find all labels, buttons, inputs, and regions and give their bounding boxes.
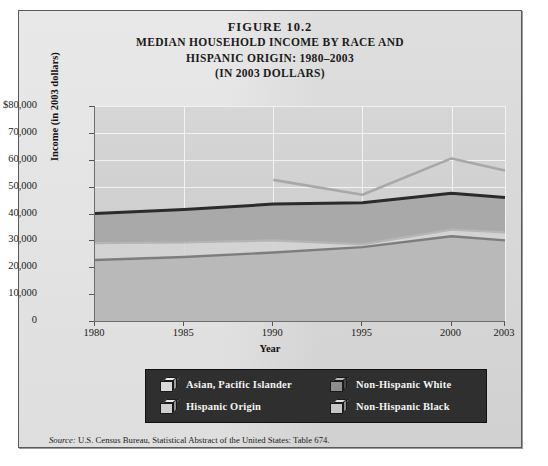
x-axis-line	[94, 321, 505, 322]
x-tick-label: 1990	[262, 327, 283, 338]
x-tick-label: 1980	[84, 327, 105, 338]
chart-legend: Asian, Pacific IslanderHispanic OriginNo…	[145, 369, 487, 423]
y-tick-label: 0	[0, 314, 37, 325]
x-tick-mark	[272, 322, 273, 326]
y-tick-label: 70,000	[0, 126, 37, 137]
figure-number: FIGURE 10.2	[19, 19, 521, 35]
x-tick-label: 1985	[173, 327, 194, 338]
figure-frame: FIGURE 10.2 MEDIAN HOUSEHOLD INCOME BY R…	[18, 10, 522, 448]
y-tick-label: 40,000	[0, 207, 37, 218]
legend-item[interactable]: Non-Hispanic White	[330, 377, 451, 392]
figure-title-block: FIGURE 10.2 MEDIAN HOUSEHOLD INCOME BY R…	[19, 19, 521, 82]
source-text: U.S. Census Bureau, Statistical Abstract…	[76, 435, 330, 445]
legend-swatch-cube-icon	[330, 399, 347, 414]
x-tick-mark	[94, 322, 95, 326]
x-axis-title: Year	[19, 343, 521, 354]
x-tick-label: 2000	[440, 327, 461, 338]
x-tick-mark	[451, 322, 452, 326]
y-tick-label: 50,000	[0, 180, 37, 191]
source-label: Source:	[49, 435, 76, 445]
x-tick-mark	[504, 322, 505, 326]
y-tick-label: 60,000	[0, 153, 37, 164]
legend-item-label: Hispanic Origin	[186, 401, 261, 412]
y-tick-label: 20,000	[0, 260, 37, 271]
legend-item[interactable]: Hispanic Origin	[160, 399, 261, 414]
y-tick-label: 30,000	[0, 233, 37, 244]
plot-area	[94, 106, 505, 321]
legend-swatch-cube-icon	[330, 377, 347, 392]
figure-title-line-3: (IN 2003 DOLLARS)	[19, 66, 521, 82]
y-tick-label: $80,000	[0, 99, 37, 110]
legend-item-label: Non-Hispanic Black	[356, 401, 450, 412]
source-note: Source: U.S. Census Bureau, Statistical …	[49, 435, 497, 445]
legend-item[interactable]: Asian, Pacific Islander	[160, 377, 292, 392]
legend-item[interactable]: Non-Hispanic Black	[330, 399, 450, 414]
figure-title-line-2: HISPANIC ORIGIN: 1980–2003	[19, 51, 521, 67]
x-tick-mark	[361, 322, 362, 326]
legend-swatch-cube-icon	[160, 377, 177, 392]
chart-series-layer	[95, 106, 505, 321]
gridline-x	[505, 106, 506, 321]
y-tick-label: 10,000	[0, 287, 37, 298]
x-tick-label: 2003	[494, 327, 515, 338]
figure-title-line-1: MEDIAN HOUSEHOLD INCOME BY RACE AND	[19, 35, 521, 51]
legend-item-label: Asian, Pacific Islander	[186, 379, 292, 390]
x-tick-mark	[183, 322, 184, 326]
legend-swatch-cube-icon	[160, 399, 177, 414]
legend-item-label: Non-Hispanic White	[356, 379, 451, 390]
x-tick-label: 1995	[351, 327, 372, 338]
y-axis-title: Income (in 2003 dollars)	[49, 52, 60, 161]
